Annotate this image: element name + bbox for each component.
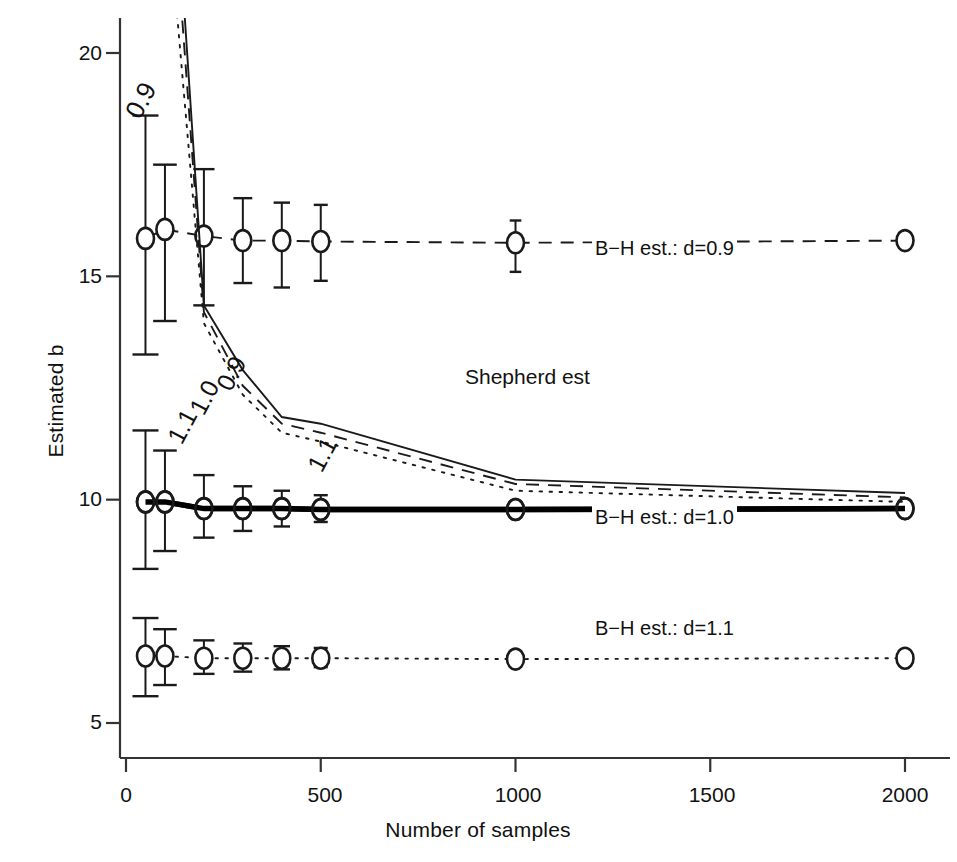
data-point-marker xyxy=(897,648,914,669)
data-point-marker xyxy=(234,230,251,251)
data-point-marker xyxy=(137,646,154,667)
data-point-marker xyxy=(312,231,329,252)
data-point-marker xyxy=(195,648,212,669)
ytick-label-20: 20 xyxy=(46,41,102,65)
data-point-marker xyxy=(156,646,173,667)
ytick-label-5: 5 xyxy=(46,710,102,734)
xtick-label-1000: 1000 xyxy=(473,783,563,807)
data-point-marker xyxy=(273,230,290,251)
y-axis-title: Estimated b xyxy=(44,301,68,501)
chart-figure: 20 15 10 5 0 500 1000 1500 2000 Estimate… xyxy=(0,0,957,862)
ytick-label-15: 15 xyxy=(46,264,102,288)
data-point-marker xyxy=(507,649,524,670)
xtick-label-0: 0 xyxy=(81,783,171,807)
data-point-marker xyxy=(273,648,290,669)
xtick-label-1500: 1500 xyxy=(667,783,757,807)
data-point-marker xyxy=(507,232,524,253)
data-point-marker xyxy=(137,228,154,249)
annotation-shepherd-est: Shepherd est xyxy=(463,365,592,389)
data-point-marker xyxy=(897,230,914,251)
xtick-label-2000: 2000 xyxy=(860,783,950,807)
series-label-bh-d10: B−H est.: d=1.0 xyxy=(592,506,737,529)
data-point-marker xyxy=(234,648,251,669)
x-axis-title: Number of samples xyxy=(328,818,628,842)
data-point-marker xyxy=(312,648,329,669)
plot-canvas xyxy=(0,0,957,862)
series-label-bh-d09: B−H est.: d=0.9 xyxy=(592,237,737,260)
data-point-marker xyxy=(156,219,173,240)
xtick-label-500: 500 xyxy=(280,783,370,807)
series-label-bh-d11: B−H est.: d=1.1 xyxy=(592,617,737,640)
